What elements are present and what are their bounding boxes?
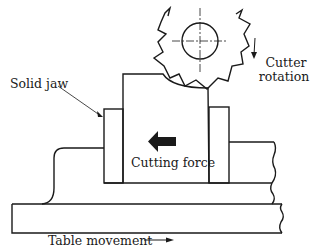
cutter-center-mark bbox=[172, 8, 228, 72]
machine-table bbox=[12, 204, 283, 233]
cutting-force-arrow bbox=[148, 131, 176, 152]
diagram-drawing bbox=[0, 0, 312, 247]
vice-body-right bbox=[229, 142, 276, 183]
solid-jaw bbox=[104, 109, 123, 183]
milling-cutter bbox=[154, 8, 250, 89]
diagram-canvas: Solid jaw Cutter rotation Cutting force … bbox=[0, 0, 312, 247]
solid-jaw-label: Solid jaw bbox=[10, 77, 68, 90]
cutter-rotation-label-line2: rotation bbox=[258, 70, 310, 83]
cutter-rotation-arrow bbox=[251, 38, 257, 59]
movable-jaw bbox=[209, 107, 229, 183]
cutting-force-label: Cutting force bbox=[131, 156, 215, 169]
table-movement-label: Table movement bbox=[48, 234, 152, 247]
cutter-rotation-label-line1: Cutter bbox=[262, 56, 310, 69]
